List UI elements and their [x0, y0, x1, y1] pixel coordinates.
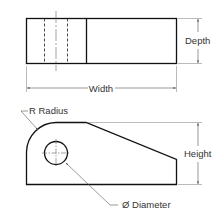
- height-label: Height: [184, 148, 212, 159]
- depth-label: Depth: [185, 35, 210, 46]
- front-view: R Radius Ø Diameter Height: [21, 105, 212, 210]
- diameter-label: Ø Diameter: [122, 199, 171, 210]
- top-view-outline: [27, 19, 177, 64]
- technical-drawing: Width Depth R Radius Ø Diameter Height: [0, 0, 218, 221]
- front-view-outline: [27, 123, 177, 185]
- radius-label: R Radius: [29, 105, 68, 116]
- width-label: Width: [89, 83, 113, 94]
- top-view: Width Depth: [27, 11, 211, 94]
